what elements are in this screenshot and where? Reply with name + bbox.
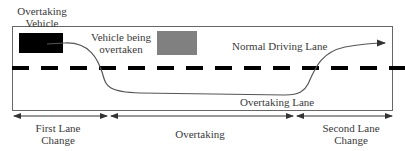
label-line: Second Lane	[316, 122, 386, 134]
label-line: Overtaking	[12, 5, 72, 17]
phase-second-lane-change: Second Lane Change	[316, 122, 386, 146]
vehicle-overtaken-label: Vehicle being overtaken	[86, 31, 156, 55]
phase-overtaking: Overtaking	[165, 128, 235, 140]
label-line: First Lane	[28, 122, 88, 134]
overtaking-lane-label: Overtaking Lane	[240, 96, 314, 108]
phase-first-lane-change: First Lane Change	[28, 122, 88, 146]
overtaking-vehicle-label: Overtaking Vehicle	[12, 5, 72, 29]
normal-lane-label: Normal Driving Lane	[232, 40, 327, 52]
vehicle-overtaken	[157, 31, 197, 55]
label-line: Vehicle	[12, 17, 72, 29]
label-line: Overtaking	[165, 128, 235, 140]
label-line: Change	[316, 134, 386, 146]
label-line: overtaken	[86, 43, 156, 55]
label-line: Vehicle being	[86, 31, 156, 43]
label-line: Change	[28, 134, 88, 146]
